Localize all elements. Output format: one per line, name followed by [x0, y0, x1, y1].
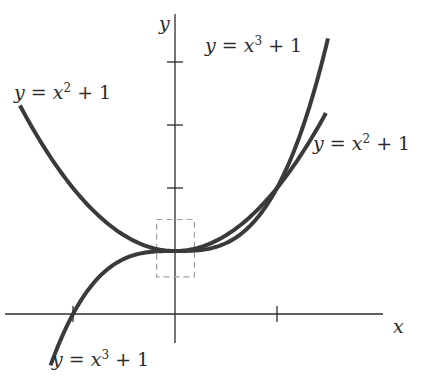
label-exp: 3 — [254, 34, 262, 48]
label-eq: = — [216, 34, 244, 56]
label-parabola-left: y = x2 + 1 — [14, 83, 111, 102]
label-eq: = — [63, 348, 91, 370]
label-rest: + 1 — [370, 132, 410, 154]
label-var: x — [53, 81, 64, 103]
x-axis-label: x — [393, 317, 404, 336]
label-cubic-bottom: y = x3 + 1 — [52, 350, 149, 369]
label-var: x — [91, 348, 102, 370]
label-lhs: y — [14, 81, 25, 103]
function-graph — [0, 0, 431, 377]
label-eq: = — [25, 81, 53, 103]
label-exp: 2 — [63, 81, 71, 95]
y-axis-label: y — [159, 14, 170, 33]
label-rest: + 1 — [109, 348, 149, 370]
label-var: x — [244, 34, 255, 56]
label-var: x — [352, 132, 363, 154]
label-cubic-top: y = x3 + 1 — [205, 36, 302, 55]
label-eq: = — [324, 132, 352, 154]
label-lhs: y — [52, 348, 63, 370]
label-lhs: y — [205, 34, 216, 56]
label-rest: + 1 — [71, 81, 111, 103]
label-exp: 2 — [362, 132, 370, 146]
label-exp: 3 — [101, 348, 109, 362]
label-parabola-right: y = x2 + 1 — [313, 134, 410, 153]
label-rest: + 1 — [262, 34, 302, 56]
label-lhs: y — [313, 132, 324, 154]
